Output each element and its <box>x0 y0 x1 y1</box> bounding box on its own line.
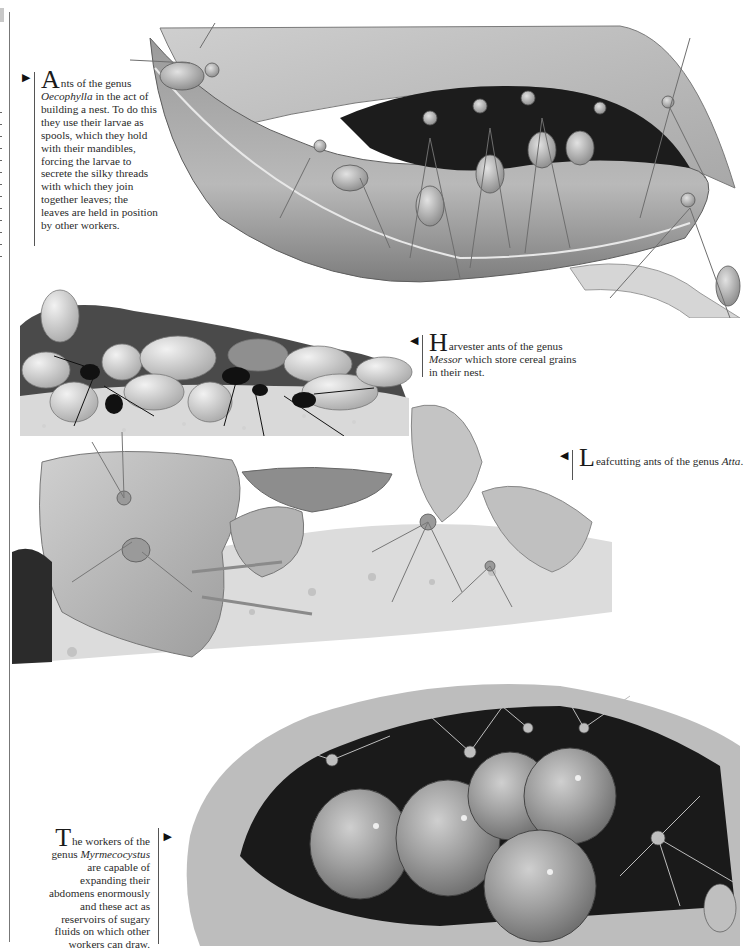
genus-name: Oecophylla <box>41 90 93 102</box>
pointer-right-icon: ▶ <box>22 72 30 83</box>
leafcutter-ants-illustration <box>12 402 612 664</box>
caption-atta: ◀ Leafcutting ants of the genus Atta. <box>560 448 745 468</box>
caption-text: are capable of expanding their abdomens … <box>49 861 150 950</box>
honeypot-ants-illustration <box>180 676 745 946</box>
pointer-left-icon: ◀ <box>410 335 418 346</box>
weaver-ants-illustration <box>130 18 745 318</box>
genus-name: Atta <box>722 455 741 467</box>
facing-page-text-edge <box>0 112 3 272</box>
genus-name: Messor <box>429 353 462 365</box>
drop-cap: L <box>579 443 595 472</box>
caption-text: arvester ants of the genus <box>449 340 563 352</box>
caption-text: nts of the genus <box>61 77 132 89</box>
caption-messor: ◀ Harvester ants of the genus Messor whi… <box>410 333 580 379</box>
caption-text: eafcutting ants of the genus <box>596 455 722 467</box>
page-edge-tab <box>0 8 4 22</box>
caption-text: . <box>740 455 743 467</box>
caption-rule <box>158 828 159 944</box>
pointer-right-icon: ▶ <box>164 831 172 842</box>
genus-name: Myrmecocystus <box>80 848 150 860</box>
caption-rule <box>422 335 423 377</box>
caption-myrmecocystus: The workers of the genus Myrmecocystus a… <box>38 828 170 951</box>
pointer-left-icon: ◀ <box>560 450 568 461</box>
page-margin-rule <box>9 12 10 942</box>
caption-text: in the act of building a nest. To do thi… <box>41 90 158 231</box>
caption-oecophylla: ▶ Ants of the genus Oecophylla in the ac… <box>22 70 158 232</box>
caption-rule <box>34 72 35 246</box>
caption-rule <box>572 450 573 480</box>
